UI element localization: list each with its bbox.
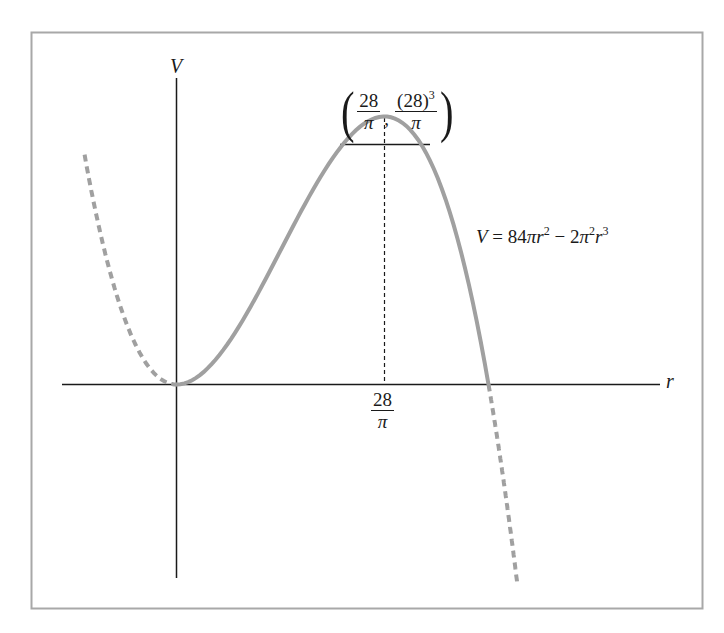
equation-label: V = 84πr2 − 2π2r3: [476, 226, 608, 248]
figure: V r 28 π ( 28 π , (28)3 π ) V = 84πr2 − …: [0, 0, 724, 633]
curve-right-dashed: [489, 385, 518, 584]
close-paren: ): [440, 83, 454, 141]
curve-main: [177, 117, 489, 385]
curve-left-dashed: [85, 155, 177, 385]
x-tick-28-over-pi: 28 π: [371, 390, 394, 433]
peak-x-fraction: 28 π: [357, 91, 380, 134]
maximum-point-label: ( 28 π , (28)3 π ): [338, 80, 456, 144]
open-paren: (: [341, 83, 355, 141]
peak-y-fraction: (28)3 π: [395, 91, 437, 134]
comma: ,: [384, 108, 389, 130]
y-axis-label: V: [170, 55, 182, 78]
x-axis-label: r: [666, 370, 674, 393]
